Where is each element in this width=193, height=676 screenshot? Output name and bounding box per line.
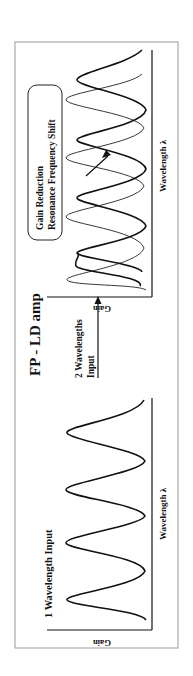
left-gain-curve (66, 400, 146, 620)
left-panel: 1 Wavelength Input Gain Wavelength λ (43, 398, 168, 648)
transition-label-line1: 2 Wavelengths (74, 319, 84, 378)
diagram-title: FP - LD amp (27, 293, 43, 376)
annotation-line1: Gain Reduction (35, 165, 45, 230)
right-gain-label: Gain (93, 304, 111, 314)
annotation-line2: Resonance Frequency Shift (47, 119, 57, 230)
right-panel: Gain Wavelength λ Gain Reduction Resonan… (28, 50, 168, 314)
left-panel-heading: 1 Wavelength Input (43, 529, 54, 618)
diagram-canvas: FP - LD amp 1 Wavelength Input Gain Wave… (0, 0, 193, 676)
left-gain-label: Gain (93, 638, 111, 648)
left-wavelength-label: Wavelength λ (158, 487, 168, 540)
shifted-gain-curve (76, 50, 146, 286)
transition-label-line2: Input (86, 354, 96, 378)
right-wavelength-label: Wavelength λ (158, 139, 168, 192)
